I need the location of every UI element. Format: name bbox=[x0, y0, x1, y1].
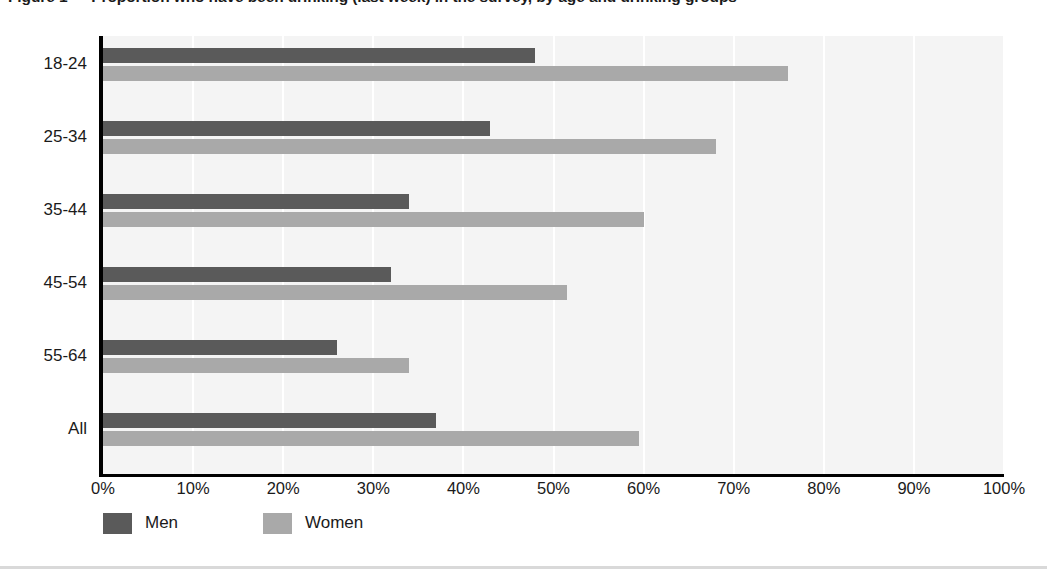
y-tick-label-25-34: 25-34 bbox=[0, 127, 87, 147]
x-tick-label-90: 90% bbox=[879, 479, 949, 498]
bar-women-All bbox=[103, 431, 639, 446]
x-tick-label-70: 70% bbox=[699, 479, 769, 498]
y-tick-label-All: All bbox=[0, 419, 87, 439]
y-tick-label-35-44: 35-44 bbox=[0, 200, 87, 220]
x-tick-label-50: 50% bbox=[519, 479, 589, 498]
x-tick-label-0: 0% bbox=[68, 479, 138, 498]
y-tick-label-45-54: 45-54 bbox=[0, 273, 87, 293]
x-tick-label-100: 100% bbox=[969, 479, 1039, 498]
bar-men-18-24 bbox=[103, 48, 535, 63]
gridline bbox=[913, 36, 915, 474]
bar-men-45-54 bbox=[103, 267, 391, 282]
bar-men-25-34 bbox=[103, 121, 490, 136]
y-axis-line bbox=[99, 36, 103, 474]
chart-title: Figure 1 — Proportion who have been drin… bbox=[8, 0, 1038, 9]
y-tick-label-55-64: 55-64 bbox=[0, 346, 87, 366]
legend-label-men: Men bbox=[145, 513, 178, 533]
gridline bbox=[1003, 36, 1005, 474]
bar-men-All bbox=[103, 413, 436, 428]
legend-swatch-women bbox=[263, 513, 292, 534]
gridline bbox=[462, 36, 464, 474]
bar-men-55-64 bbox=[103, 340, 337, 355]
gridline bbox=[192, 36, 194, 474]
bar-women-25-34 bbox=[103, 139, 716, 154]
legend-label-women: Women bbox=[305, 513, 363, 533]
x-tick-label-30: 30% bbox=[338, 479, 408, 498]
bar-chart: Figure 1 — Proportion who have been drin… bbox=[0, 0, 1047, 569]
bar-women-18-24 bbox=[103, 66, 788, 81]
x-axis-line bbox=[99, 474, 1004, 477]
gridline bbox=[282, 36, 284, 474]
legend-item-men[interactable]: Men bbox=[103, 511, 178, 535]
x-tick-label-20: 20% bbox=[248, 479, 318, 498]
gridline bbox=[553, 36, 555, 474]
gridline bbox=[733, 36, 735, 474]
gridline bbox=[643, 36, 645, 474]
bar-women-45-54 bbox=[103, 285, 567, 300]
x-tick-label-60: 60% bbox=[609, 479, 679, 498]
bar-women-55-64 bbox=[103, 358, 409, 373]
gridline bbox=[372, 36, 374, 474]
bar-women-35-44 bbox=[103, 212, 644, 227]
y-tick-label-18-24: 18-24 bbox=[0, 54, 87, 74]
x-tick-label-40: 40% bbox=[428, 479, 498, 498]
bar-men-35-44 bbox=[103, 194, 409, 209]
legend-item-women[interactable]: Women bbox=[263, 511, 363, 535]
legend-swatch-men bbox=[103, 513, 132, 534]
x-tick-label-80: 80% bbox=[789, 479, 859, 498]
x-tick-label-10: 10% bbox=[158, 479, 228, 498]
gridline bbox=[823, 36, 825, 474]
